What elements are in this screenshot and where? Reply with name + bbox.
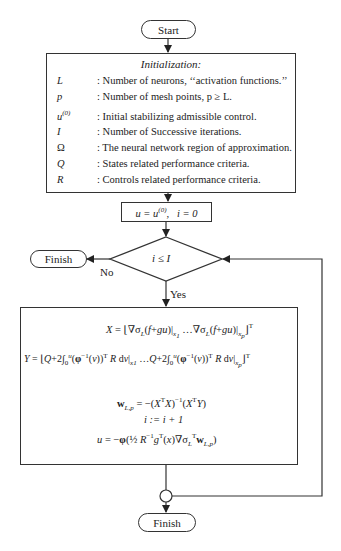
equation-u: u = −φ(½ R−1gT(x)∇σLTwL,p) (97, 432, 216, 448)
init-row-L: L: Number of neurons, ‘‘activation funct… (57, 75, 288, 86)
init-symbol: u(0) (57, 109, 97, 122)
init-row-omega: Ω: The neural network region of approxim… (57, 142, 292, 153)
equation-i: i := i + 1 (144, 414, 183, 425)
init-description: : Number of mesh points, p ≥ L. (97, 91, 232, 102)
init-symbol: L (57, 75, 97, 86)
start-terminal: Start (141, 20, 196, 39)
start-label: Start (158, 24, 179, 36)
initialization-title: Initialization: (47, 58, 295, 70)
init-symbol: Ω (57, 142, 97, 153)
init-description: : States related performance criteria. (97, 158, 249, 169)
junction-circle (160, 490, 172, 502)
equation-y: Y = ⌊Q+2∫0u(φ−1(v))T R dv|x1 …Q+2∫0u(φ−1… (24, 352, 250, 370)
compute-box: X = ⌊∇σL(f+gu)|x1 …∇σL(f+gu)|xp⌋T Y = ⌊Q… (20, 307, 298, 465)
equation-w: wL,p = −(XTX)−1(XTY) (117, 396, 206, 412)
init-row-I: I: Number of Successive iterations. (57, 126, 241, 137)
init-symbol: R (57, 174, 97, 185)
no-label: No (100, 266, 113, 278)
init-row-R: R: Controls related performance criteria… (57, 174, 261, 185)
init-row-p: p: Number of mesh points, p ≥ L. (57, 91, 232, 102)
init-symbol: Q (57, 158, 97, 169)
init-description: : Number of Successive iterations. (97, 126, 241, 137)
finish-terminal-bottom: Finish (138, 513, 196, 532)
finish-label: Finish (153, 517, 181, 529)
init-description: : Number of neurons, ‘‘activation functi… (97, 75, 288, 86)
equation-x: X = ⌊∇σL(f+gu)|x1 …∇σL(f+gu)|xp⌋T (106, 322, 253, 340)
init-row-Q: Q: States related performance criteria. (57, 158, 249, 169)
assign-box: u = u(0), i = 0 (121, 202, 212, 222)
finish-terminal-left: Finish (30, 250, 87, 268)
initialization-box: Initialization: L: Number of neurons, ‘‘… (46, 53, 296, 193)
init-symbol: I (57, 126, 97, 137)
finish-label: Finish (45, 253, 73, 265)
assign-text: u = u(0), i = 0 (135, 206, 197, 219)
yes-label: Yes (170, 288, 186, 300)
init-row-u0: u(0): Initial stabilizing admissible con… (57, 109, 257, 122)
init-symbol: p (57, 91, 97, 102)
decision-condition: i ≤ I (152, 252, 170, 264)
init-description: : The neural network region of approxima… (97, 142, 292, 153)
init-description: : Controls related performance criteria. (97, 174, 261, 185)
init-description: : Initial stabilizing admissible control… (97, 111, 257, 122)
